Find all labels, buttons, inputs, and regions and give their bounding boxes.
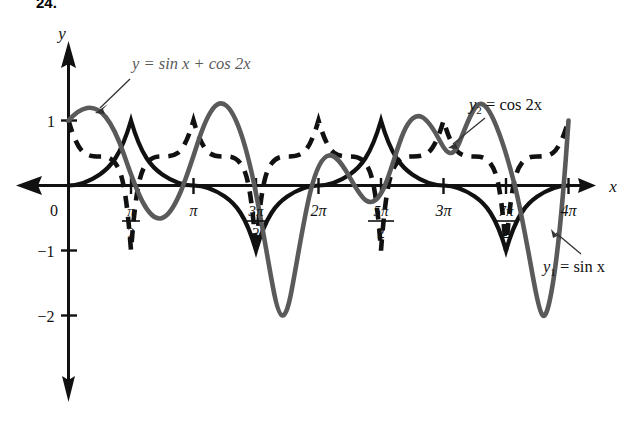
y-axis-up-arrow-icon	[61, 41, 76, 68]
x-tick-label-3pi: 3π	[434, 202, 452, 219]
annotation-cos-rest: = cos 2x	[482, 95, 543, 114]
x-tick-label-pi: π	[189, 202, 198, 219]
annotation-cos-curve: y2 = cos 2x	[467, 95, 543, 116]
x-tick-label-denominator: 2	[502, 225, 510, 241]
y-tick-label-neg2: −2	[37, 308, 54, 325]
x-tick-label-numerator: 3π	[247, 203, 264, 219]
x-axis-label: x	[608, 177, 617, 196]
y-axis-label: y	[56, 24, 66, 43]
graph-figure: y x 0 1 −1 −2 π 2 π 3π 2 2π 5π 2 3π 7π 2…	[0, 0, 636, 424]
x-tick-label-5pi-over-2: 5π 2	[368, 203, 394, 241]
annotation-sum-curve: y = sin x + cos 2x	[130, 54, 251, 73]
annotation-sin-rest: = sin x	[556, 257, 606, 276]
x-tick-label-2pi: 2π	[310, 202, 327, 219]
annotation-sin-curve: y1 = sin x	[541, 257, 606, 278]
x-tick-label-denominator: 2	[377, 225, 385, 241]
x-tick-label-numerator: 5π	[373, 203, 389, 219]
x-tick-label-pi-over-2: π 2	[122, 203, 140, 241]
x-tick-label-numerator: π	[127, 203, 135, 219]
origin-label: 0	[50, 202, 58, 219]
annotation-sum-leader-line	[100, 79, 130, 108]
x-tick-label-numerator: 7π	[498, 203, 514, 219]
annotation-cos-text: y2 = cos 2x	[467, 95, 543, 116]
x-tick-label-denominator: 2	[127, 225, 135, 241]
x-axis-right-arrow-icon	[578, 178, 596, 193]
x-tick-label-denominator: 2	[252, 225, 260, 241]
y-tick-label-1: 1	[47, 113, 55, 130]
y-tick-label-neg1: −1	[37, 243, 54, 260]
annotation-sin-text: y1 = sin x	[541, 257, 606, 278]
x-tick-label-4pi: 4π	[560, 202, 577, 219]
